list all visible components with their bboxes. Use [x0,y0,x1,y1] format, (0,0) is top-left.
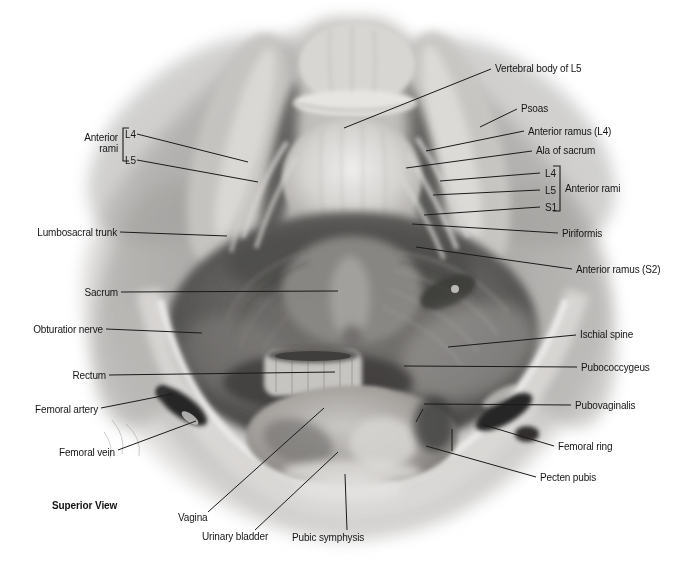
label-femoral-vein: Femoral vein [59,447,115,458]
label-obturatior-nerve: Obturatior nerve [33,324,103,335]
label-anterior-rami-right: Anterior rami [565,183,620,194]
label-pubovaginalis: Pubovaginalis [575,400,635,411]
label-urinary-bladder: Urinary bladder [202,531,268,542]
label-ala-of-sacrum: Ala of sacrum [536,145,595,156]
label-vagina: Vagina [178,512,208,523]
label-vertebral-body-of-l5: Vertebral body of L5 [495,63,582,74]
label-psoas: Psoas [521,103,548,114]
label-l4-right: L4 [545,168,556,179]
labels-layer: Vertebral body of L5PsoasAnterior ramus … [0,0,684,578]
label-anterior-rami-left: Anterior rami [68,132,118,154]
label-pecten-pubis: Pecten pubis [540,472,596,483]
label-l4-left: L4 [125,129,136,140]
label-piriformis: Piriformis [562,228,602,239]
label-l5-right: L5 [545,185,556,196]
label-sacrum: Sacrum [84,287,118,298]
label-ischial-spine: Ischial spine [580,329,633,340]
label-lumbosacral-trunk: Lumbosacral trunk [37,227,117,238]
label-pubic-symphysis: Pubic symphysis [292,532,364,543]
label-anterior-ramus-l4: Anterior ramus (L4) [528,126,611,137]
label-pubococcygeus: Pubococcygeus [581,362,650,373]
label-l5-left: L5 [125,155,136,166]
label-s1-right: S1 [545,202,557,213]
label-femoral-artery: Femoral artery [35,404,98,415]
figure-panel: Vertebral body of L5PsoasAnterior ramus … [0,0,684,578]
label-anterior-ramus-s2: Anterior ramus (S2) [576,264,660,275]
label-femoral-ring: Femoral ring [558,441,612,452]
figure-caption: Superior View [52,500,117,511]
label-rectum: Rectum [72,370,106,381]
